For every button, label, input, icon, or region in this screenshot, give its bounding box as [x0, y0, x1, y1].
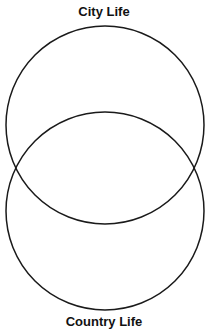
- country-life-circle: [6, 112, 204, 310]
- set-label-country-life: Country Life: [0, 314, 208, 329]
- city-life-circle: [6, 26, 204, 224]
